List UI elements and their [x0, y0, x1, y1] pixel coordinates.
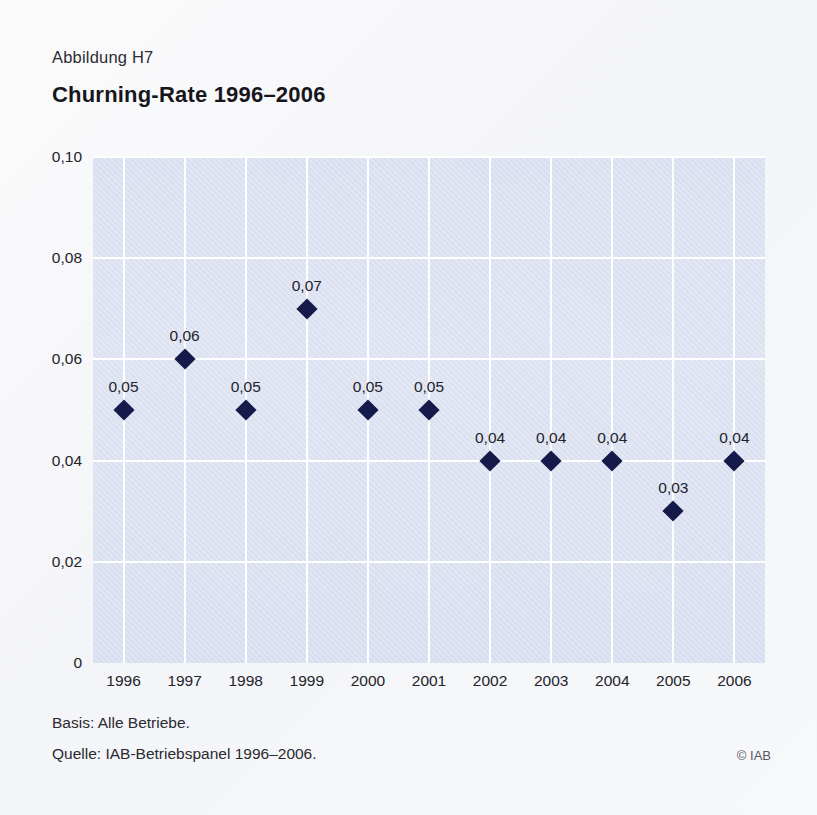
- x-axis-tick-label: 2001: [412, 672, 446, 690]
- gridline-vertical: [611, 157, 613, 663]
- y-axis-tick-label: 0,04: [52, 452, 82, 470]
- figure-page: Abbildung H7 Churning-Rate 1996–2006 00,…: [0, 0, 817, 815]
- x-axis-tick-label: 2003: [534, 672, 568, 690]
- x-axis-tick-label: 1996: [106, 672, 140, 690]
- gridline-vertical: [672, 157, 674, 663]
- x-axis-tick-label: 2005: [656, 672, 690, 690]
- y-axis-tick-label: 0,02: [52, 553, 82, 571]
- gridline-vertical: [733, 157, 735, 663]
- data-point-label: 0,04: [597, 429, 627, 447]
- data-point-label: 0,06: [170, 327, 200, 345]
- figure-label: Abbildung H7: [52, 48, 153, 67]
- gridline-vertical: [550, 157, 552, 663]
- copyright-note: © IAB: [737, 748, 771, 763]
- x-axis-tick-label: 2004: [595, 672, 629, 690]
- source-note: Quelle: IAB-Betriebspanel 1996–2006.: [52, 745, 317, 763]
- page-title: Churning-Rate 1996–2006: [52, 82, 326, 108]
- data-point-label: 0,05: [414, 378, 444, 396]
- data-point-label: 0,05: [108, 378, 138, 396]
- y-axis-tick-label: 0,08: [52, 249, 82, 267]
- x-axis-tick-label: 1997: [167, 672, 201, 690]
- chart-plot-area: 00,020,040,060,080,10 199619971998199920…: [93, 157, 765, 663]
- gridline-vertical: [489, 157, 491, 663]
- y-axis-tick-label: 0: [73, 654, 82, 672]
- x-axis-tick-label: 2002: [473, 672, 507, 690]
- y-axis-tick-label: 0,06: [52, 350, 82, 368]
- data-point-label: 0,05: [231, 378, 261, 396]
- data-point-label: 0,04: [536, 429, 566, 447]
- y-axis-tick-label: 0,10: [52, 148, 82, 166]
- gridline-vertical: [184, 157, 186, 663]
- x-axis-tick-label: 1998: [228, 672, 262, 690]
- data-point-label: 0,04: [475, 429, 505, 447]
- x-axis-tick-label: 1999: [290, 672, 324, 690]
- data-point-label: 0,03: [658, 479, 688, 497]
- data-point-label: 0,05: [353, 378, 383, 396]
- gridline-vertical: [306, 157, 308, 663]
- x-axis-tick-label: 2000: [351, 672, 385, 690]
- data-point-label: 0,07: [292, 277, 322, 295]
- x-axis-tick-label: 2006: [717, 672, 751, 690]
- basis-note: Basis: Alle Betriebe.: [52, 714, 190, 732]
- data-point-label: 0,04: [719, 429, 749, 447]
